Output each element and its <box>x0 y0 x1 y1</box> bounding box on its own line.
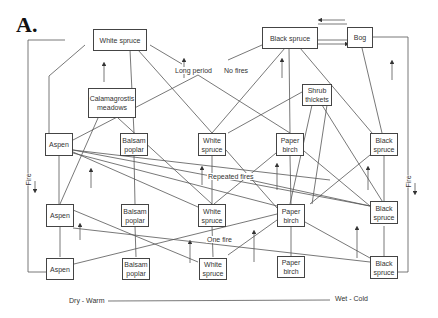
node-shrub-thickets: Shrub thickets <box>302 84 332 106</box>
label-repeated-fires: Repeated fires <box>207 173 255 180</box>
node-white-spruce-r3: White spruce <box>199 258 227 280</box>
node-black-spruce-r1: Black spruce <box>370 133 398 156</box>
node-balsam-poplar-r1: Balsam poplar <box>120 133 148 156</box>
label-one-fire: One fire <box>206 236 233 243</box>
label-fire-left: Fire <box>25 173 32 185</box>
node-paper-birch-r1: Paper birch <box>276 133 304 156</box>
label-long-period: Long period <box>174 67 213 74</box>
node-balsam-poplar-r2: Balsam poplar <box>121 204 149 227</box>
label-no-fires: No fires <box>223 67 249 74</box>
node-calamagrostis-meadows: Calamagrostis meadows <box>88 88 136 118</box>
node-bog: Bog <box>347 27 373 48</box>
label-dry-warm: Dry - Warm <box>68 297 106 304</box>
node-paper-birch-r3: Paper birch <box>277 256 305 278</box>
node-white-spruce-r2: White spruce <box>198 204 226 227</box>
node-paper-birch-r2: Paper birch <box>277 204 305 227</box>
node-black-spruce-r2: Black spruce <box>370 201 398 224</box>
node-white-spruce-r1: White spruce <box>198 133 226 156</box>
node-aspen-r3: Aspen <box>46 258 74 280</box>
node-aspen-r1: Aspen <box>45 133 73 156</box>
label-fire-right: Fire <box>405 175 412 187</box>
node-aspen-r2: Aspen <box>46 204 74 227</box>
node-balsam-poplar-r3: Balsam poplar <box>122 258 150 280</box>
node-black-spruce-top: Black spruce <box>262 27 318 49</box>
panel-label: A. <box>16 12 37 38</box>
node-white-spruce-top: White spruce <box>93 29 147 51</box>
node-black-spruce-r3: Black spruce <box>370 256 398 279</box>
label-wet-cold: Wet - Cold <box>334 295 369 302</box>
